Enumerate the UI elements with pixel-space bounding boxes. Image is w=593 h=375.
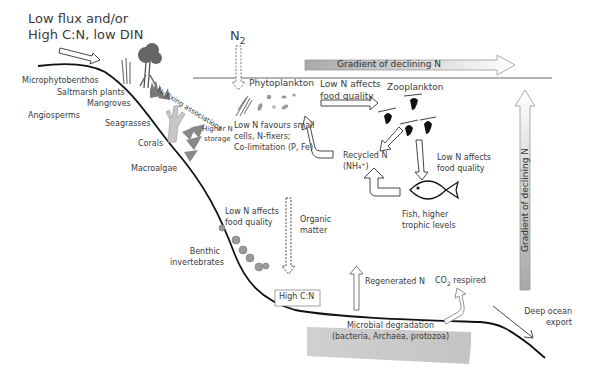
vertical-gradient-label: Gradient of declining N [520, 148, 530, 252]
recycled-line2: (NH₄⁺) [343, 161, 387, 172]
seagrasses-label: Seagrasses [105, 119, 151, 128]
phytoplankton-icon [236, 96, 252, 116]
deep-ocean-export-label: Deep ocean export [520, 306, 572, 328]
fish-line1: Fish, higher [402, 209, 456, 220]
recycled-line1: Recycled N [343, 150, 387, 161]
fish-to-recycled-arrow [364, 168, 400, 196]
deep-line2: export [520, 317, 572, 328]
angiosperms-label: Angiosperms [28, 111, 80, 120]
zooplankton-label: Zooplankton [387, 82, 444, 92]
regenerated-n-arrow [350, 266, 363, 310]
input-label-line2: High C:N, low DIN [28, 27, 143, 43]
microphytobenthos-label: Microphytobenthos [22, 76, 99, 85]
higher-n-storage-label: Higher N storage [202, 124, 233, 144]
phyto-note-line1: Low N favours small [234, 120, 315, 131]
recycled-n-label: Recycled N (NH₄⁺) [343, 150, 387, 172]
food-quality-benthic-line1: Low N affects [225, 206, 279, 217]
food-quality-benthic-label: Low N affects food quality [225, 206, 279, 228]
phytoplankton-cells-icon [257, 93, 296, 111]
input-label: Low flux and/or High C:N, low DIN [28, 11, 143, 43]
fish-label: Fish, higher trophic levels [402, 209, 456, 231]
benthic-line2: invertebrates [170, 257, 220, 268]
phyto-note-line3: Co-limitation (P, Fe) [234, 142, 315, 153]
co2-respired-text: respired [451, 276, 486, 285]
regenerated-n-label: Regenerated N [365, 277, 425, 286]
co2-text: CO [435, 276, 447, 285]
fish-icon [410, 181, 458, 199]
zoo-to-recycled-arrow [380, 127, 403, 151]
higher-n-line1: Higher N [202, 124, 233, 134]
n2-fixation-arrow [232, 46, 245, 90]
organic-matter-arrow [282, 198, 295, 274]
zooplankton-icon [378, 94, 436, 136]
saltmarsh-icon [122, 58, 130, 84]
coral-icon [166, 106, 185, 142]
benthic-invertebrates-label: Benthic invertebrates [170, 246, 220, 268]
saltmarsh-label: Saltmarsh plants [57, 88, 125, 97]
n2-subscript: 2 [240, 36, 246, 46]
organic-line2: matter [300, 225, 331, 236]
mangrove-tree-icon [138, 43, 162, 88]
microbial-degradation-label: Microbial degradation (bacteria, Archaea… [318, 320, 463, 342]
deep-line1: Deep ocean [520, 306, 572, 317]
food-quality-top-label: Low N affects food quality [320, 78, 381, 102]
higher-n-line2: storage [202, 134, 233, 144]
horizontal-gradient-label: Gradient of declining N [337, 59, 441, 69]
nitrogen-cycle-diagram [0, 0, 593, 375]
organic-matter-label: Organic matter [300, 214, 331, 236]
input-arrow [59, 48, 100, 64]
phyto-note-line2: cells, N-fixers; [234, 131, 315, 142]
phytoplankton-label: Phytoplankton [249, 78, 314, 88]
food-quality-right-line1: Low N affects [437, 152, 491, 163]
macroalgae-label: Macroalgae [131, 164, 177, 173]
n2-label: N2 [230, 28, 245, 46]
organic-line1: Organic [300, 214, 331, 225]
microbial-line1: Microbial degradation [318, 320, 463, 331]
co2-respired-arrow [444, 288, 466, 324]
seafloor-profile [38, 64, 545, 358]
input-label-line1: Low flux and/or [28, 11, 143, 27]
co2-respired-label: CO2 respired [435, 276, 486, 287]
food-quality-top-line1: Low N affects [320, 78, 381, 90]
microbial-line2: (bacteria, Archaea, protozoa) [318, 331, 463, 342]
benthic-line1: Benthic [170, 246, 220, 257]
corals-label: Corals [138, 139, 163, 148]
food-quality-top-line2: food quality [320, 90, 381, 102]
high-cn-label: High C:N [279, 292, 314, 301]
fish-line2: trophic levels [402, 220, 456, 231]
zoo-to-fish-arrow [415, 140, 428, 180]
n2-symbol: N [230, 28, 240, 43]
food-quality-right-line2: food quality [437, 163, 491, 174]
food-quality-benthic-line2: food quality [225, 217, 279, 228]
food-quality-right-label: Low N affects food quality [437, 152, 491, 174]
mangroves-label: Mangroves [87, 99, 131, 108]
phyto-note: Low N favours small cells, N-fixers; Co-… [234, 120, 315, 153]
